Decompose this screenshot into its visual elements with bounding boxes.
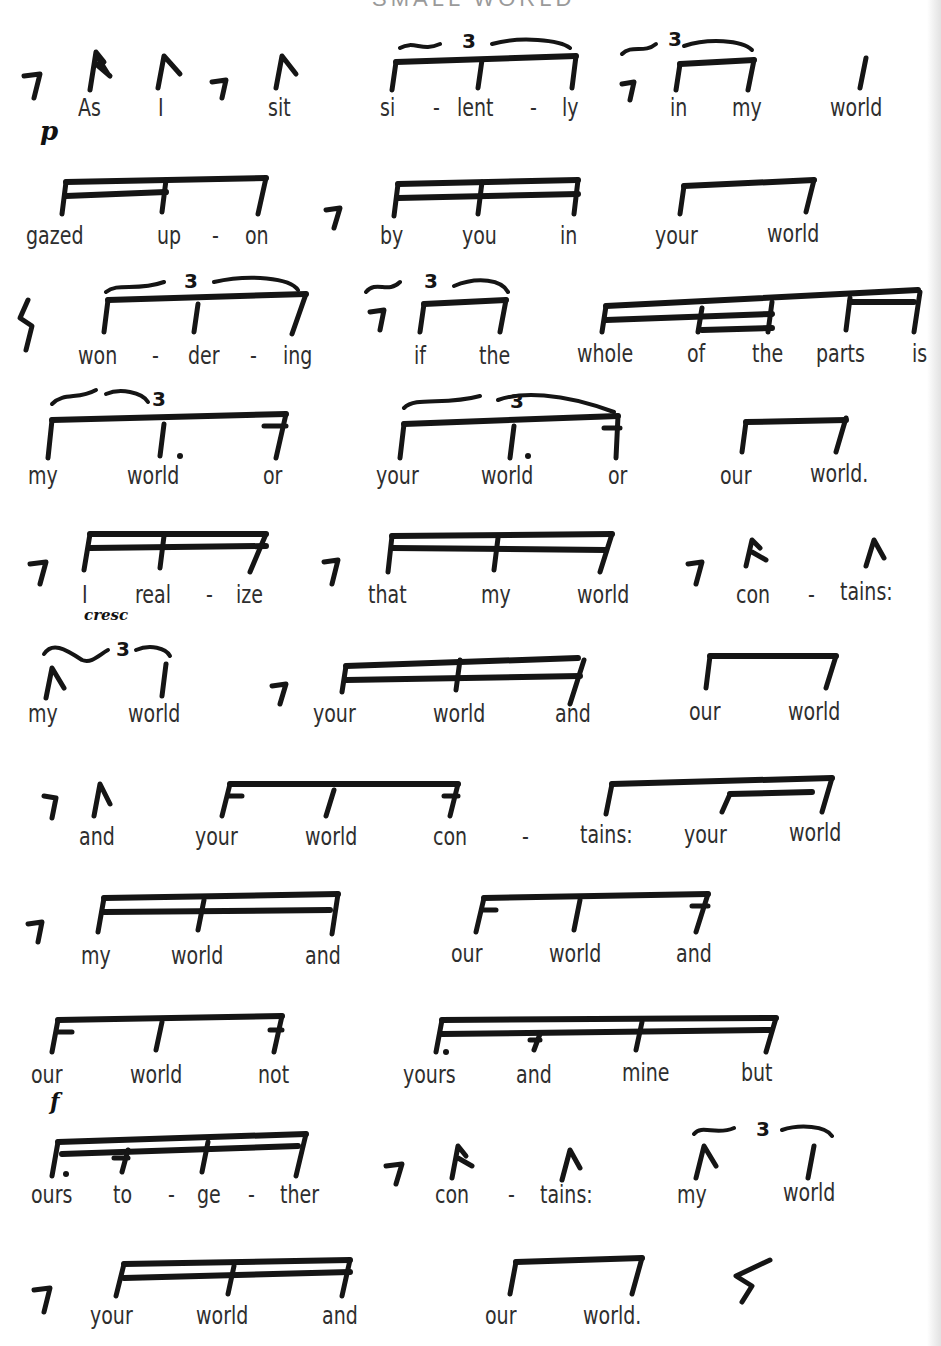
eighth-rest-icon — [44, 796, 56, 818]
lyric-syllable: of — [687, 342, 705, 366]
lyric-syllable: and — [305, 944, 341, 968]
quarter-note-icon — [46, 668, 64, 698]
lyric-syllable: and — [676, 942, 712, 966]
svg-text:3: 3 — [462, 29, 476, 53]
lyric-syllable: my — [677, 1183, 707, 1207]
lyric-syllable: is — [912, 342, 927, 366]
lyric-syllable: in — [560, 224, 577, 248]
lyric-syllable: ize — [236, 583, 263, 607]
lyric-syllable: world — [433, 702, 485, 726]
eighth-rest-icon — [34, 1288, 50, 1312]
lyric-syllable: world — [128, 702, 180, 726]
notation-line-10: 3 — [52, 1117, 832, 1184]
lyric-syllable: if — [414, 344, 426, 368]
lyric-syllable: or — [608, 464, 627, 488]
eighth-rest-icon — [30, 562, 46, 584]
syllable-hyphen: - — [212, 224, 219, 248]
lyric-syllable: world — [830, 96, 882, 120]
lyric-syllable: As — [78, 96, 101, 120]
triplet-beam — [396, 56, 576, 62]
eighth-rest-icon — [28, 922, 42, 942]
lyric-syllable: ours — [31, 1183, 72, 1207]
syllable-hyphen: - — [530, 96, 537, 120]
lyric-syllable: my — [732, 96, 762, 120]
notation-line-7 — [44, 778, 832, 818]
svg-text:3: 3 — [668, 27, 682, 51]
lyric-syllable: world — [783, 1181, 835, 1205]
rhythm-notation: 3 3 3 3 — [0, 0, 941, 1346]
dynamic-marking-f: f — [50, 1090, 59, 1112]
lyric-syllable: and — [555, 702, 591, 726]
lyric-syllable: ing — [283, 344, 312, 368]
lyric-syllable: con — [435, 1183, 469, 1207]
lyric-syllable: by — [380, 224, 403, 248]
lyric-syllable: your — [684, 823, 727, 847]
lyric-syllable: yours — [403, 1063, 456, 1087]
quarter-rest-icon — [736, 1260, 770, 1302]
quarter-note-icon — [808, 1146, 814, 1178]
lyric-syllable: the — [752, 342, 783, 366]
lyric-syllable: our — [31, 1063, 62, 1087]
lyric-syllable: won — [78, 344, 117, 368]
lyric-syllable: your — [90, 1304, 133, 1328]
syllable-hyphen: - — [206, 583, 213, 607]
lyric-syllable: tains: — [540, 1183, 593, 1207]
notation-line-4: 3 3 — [48, 387, 846, 459]
dynamic-marking-p: p — [40, 118, 58, 144]
lyric-syllable: world — [788, 700, 840, 724]
svg-text:3: 3 — [756, 1117, 770, 1141]
lyric-syllable: and — [322, 1304, 358, 1328]
syllable-hyphen: - — [152, 344, 159, 368]
tuplet-bracket — [400, 40, 570, 48]
quarter-note-icon — [860, 58, 866, 88]
svg-text:3: 3 — [510, 389, 524, 413]
lyric-syllable: our — [485, 1304, 516, 1328]
sixteenth-note-icon — [746, 540, 766, 566]
dynamic-marking-cresc: cresc — [84, 608, 128, 623]
svg-text:3: 3 — [424, 269, 438, 293]
eighth-rest-icon — [24, 74, 40, 98]
lyric-syllable: our — [451, 942, 482, 966]
notation-line-1: 3 3 — [24, 27, 866, 100]
lyric-syllable: con — [433, 825, 467, 849]
lyric-syllable: world — [130, 1063, 182, 1087]
lyric-syllable: up — [157, 224, 181, 248]
eighth-rest-icon — [324, 560, 338, 584]
lyric-syllable: not — [258, 1063, 289, 1087]
lyric-syllable: my — [481, 583, 511, 607]
lyric-syllable: my — [28, 702, 58, 726]
lyric-syllable: and — [516, 1063, 552, 1087]
eighth-rest-icon — [688, 562, 702, 584]
syllable-hyphen: - — [248, 1183, 255, 1207]
lyric-syllable: your — [655, 224, 698, 248]
lyric-syllable: world — [481, 464, 533, 488]
notation-line-5 — [30, 534, 884, 584]
svg-text:3: 3 — [184, 269, 198, 293]
quarter-note-icon — [866, 540, 884, 566]
quarter-note-icon — [162, 664, 166, 696]
notation-line-2 — [62, 178, 814, 228]
syllable-hyphen: - — [522, 825, 529, 849]
lyric-syllable: world — [171, 944, 223, 968]
eighth-rest-icon — [370, 310, 384, 330]
lyric-syllable: our — [689, 700, 720, 724]
svg-text:3: 3 — [152, 387, 166, 411]
syllable-hyphen: - — [433, 96, 440, 120]
syllable-hyphen: - — [168, 1183, 175, 1207]
lyric-syllable: con — [736, 583, 770, 607]
sixteenth-note-icon — [452, 1146, 472, 1178]
lyric-syllable: or — [263, 464, 282, 488]
notation-line-9 — [52, 1016, 776, 1055]
lyric-syllable: your — [376, 464, 419, 488]
lyric-syllable: gazed — [26, 224, 83, 248]
eighth-rest-icon — [386, 1164, 402, 1184]
lyric-syllable: the — [479, 344, 510, 368]
lyric-syllable: lent — [457, 96, 493, 120]
quarter-note-icon — [276, 56, 296, 88]
lyric-syllable: world — [305, 825, 357, 849]
lyric-syllable: whole — [577, 342, 633, 366]
lyric-syllable: your — [195, 825, 238, 849]
sixteenth-note-icon — [90, 52, 110, 90]
eighth-rest-icon — [212, 80, 226, 98]
notation-line-6: 3 — [44, 637, 836, 704]
